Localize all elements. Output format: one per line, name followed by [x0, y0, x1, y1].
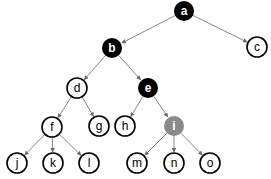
node-label: o [207, 156, 214, 170]
edge-a-c [193, 15, 247, 42]
node-h: h [115, 116, 135, 136]
node-f: f [42, 117, 62, 137]
node-label: g [96, 119, 103, 133]
node-c: c [247, 37, 267, 57]
edge-e-i [154, 96, 168, 117]
node-label: i [172, 119, 175, 133]
node-label: d [74, 81, 81, 95]
node-label: c [254, 40, 260, 54]
edge-f-l [59, 134, 81, 155]
node-label: b [108, 41, 115, 55]
node-label: n [171, 156, 178, 170]
node-k: k [43, 153, 63, 173]
edge-i-m [145, 133, 167, 155]
node-label: j [15, 156, 19, 170]
node-o: o [200, 153, 220, 173]
node-label: e [145, 81, 152, 95]
node-e: e [138, 78, 158, 98]
edge-b-d [84, 56, 105, 80]
node-m: m [127, 153, 147, 173]
node-i: i [164, 116, 184, 136]
edge-a-b [122, 16, 175, 43]
edge-e-h [131, 97, 143, 117]
node-g: g [89, 116, 109, 136]
node-b: b [102, 38, 122, 58]
edge-b-e [119, 55, 141, 79]
node-d: d [67, 78, 87, 98]
edge-d-g [82, 97, 93, 117]
nodes: abcdefghijklmno [7, 1, 267, 173]
node-a: a [174, 1, 194, 21]
node-label: h [122, 119, 129, 133]
node-label: l [88, 156, 91, 170]
node-label: m [132, 156, 142, 170]
node-label: k [50, 156, 57, 170]
node-label: a [181, 4, 188, 18]
node-j: j [7, 153, 27, 173]
edge-i-o [181, 133, 202, 155]
node-n: n [164, 153, 184, 173]
tree-diagram: abcdefghijklmno [0, 0, 271, 179]
edge-d-f [58, 96, 72, 117]
edge-f-j [25, 134, 45, 155]
node-l: l [79, 153, 99, 173]
